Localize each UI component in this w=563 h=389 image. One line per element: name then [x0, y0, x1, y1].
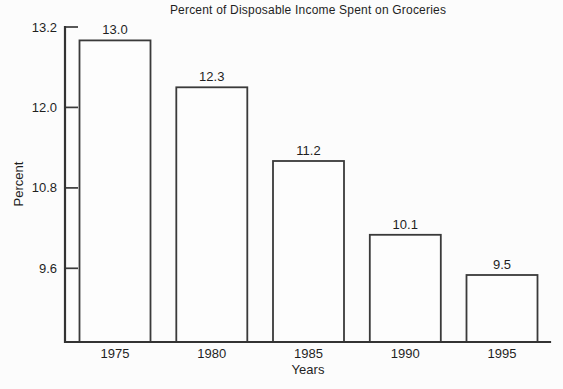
y-tick-label: 13.2 — [32, 20, 57, 35]
x-axis-label: Years — [65, 362, 551, 377]
bar-1975 — [80, 40, 151, 342]
bar-value-label: 11.2 — [296, 143, 320, 158]
bar-value-label: 13.0 — [102, 22, 127, 37]
x-tick-label: 1995 — [488, 346, 517, 361]
x-tick-label: 1975 — [101, 346, 130, 361]
x-tick-label: 1985 — [294, 346, 323, 361]
bar-value-label: 12.3 — [199, 69, 224, 84]
x-tick-label: 1980 — [197, 346, 226, 361]
bar-1985 — [273, 161, 344, 342]
y-tick-label: 10.8 — [32, 180, 57, 195]
y-tick-label: 9.6 — [39, 261, 57, 276]
bar-1990 — [370, 235, 441, 342]
bar-value-label: 9.5 — [493, 257, 511, 272]
grocery-spending-bar-chart: Percent of Disposable Income Spent on Gr… — [0, 0, 563, 389]
y-tick-label: 12.0 — [32, 100, 57, 115]
x-tick-label: 1990 — [391, 346, 420, 361]
bar-value-label: 10.1 — [393, 217, 418, 232]
plot-area: 13.0197512.3198011.2198510.119909.519951… — [0, 0, 563, 389]
bar-1995 — [467, 275, 538, 342]
bar-1980 — [176, 87, 247, 342]
